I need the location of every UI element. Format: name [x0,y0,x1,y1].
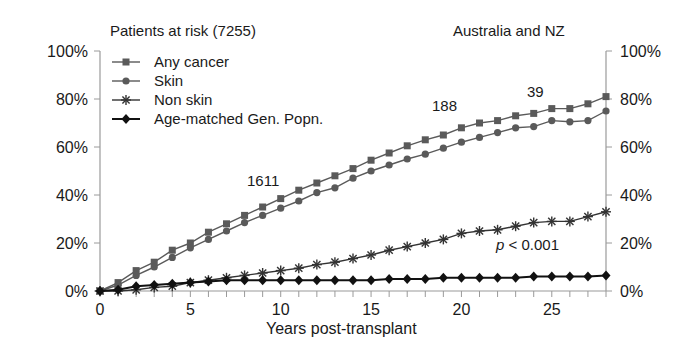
y-tick-label-right: 100% [620,43,661,60]
square-marker [494,117,501,124]
square-marker [205,229,212,236]
square-marker [422,136,429,143]
diamond-marker [168,279,177,289]
diamond-marker [367,275,376,285]
circle-marker [512,124,519,131]
y-tick-label-left: 100% [47,43,88,60]
square-marker [259,204,266,211]
asterisk-marker [583,212,593,222]
legend-label: Age-matched Gen. Popn. [154,110,323,127]
diamond-marker [403,274,412,284]
asterisk-marker [294,263,304,273]
circle-marker [205,236,212,243]
diamond-marker [240,275,249,285]
square-marker [386,150,393,157]
asterisk-marker [366,250,376,260]
circle-marker [494,129,501,136]
y-tick-label-right: 40% [620,187,652,204]
square-marker [404,142,411,149]
square-marker [277,195,284,202]
annotation-39: 39 [527,83,544,100]
x-tick-label: 20 [453,301,471,318]
asterisk-marker [475,226,485,236]
asterisk-marker [601,207,611,217]
legend-asterisk-icon [121,95,131,105]
square-marker [512,112,519,119]
asterisk-marker [456,228,466,238]
circle-marker [602,107,609,114]
circle-marker [349,175,356,182]
legend-label: Any cancer [154,53,229,70]
circle-marker [223,227,230,234]
y-tick-label-left: 60% [56,139,88,156]
square-marker [584,100,591,107]
diamond-marker [330,275,339,285]
diamond-marker [583,272,592,282]
diamond-marker [565,272,574,282]
legend-label: Skin [154,72,183,89]
chart-title-left: Patients at risk (7255) [110,22,256,39]
square-marker [440,132,447,139]
circle-marker [169,254,176,261]
square-marker [223,220,230,227]
chart-title-right: Australia and NZ [453,22,565,39]
circle-marker [133,272,140,279]
asterisk-marker [438,234,448,244]
diamond-marker [475,273,484,283]
asterisk-marker [511,221,521,231]
legend-label: Non skin [154,91,212,108]
diamond-marker [276,275,285,285]
legend-circle-icon [122,77,129,84]
x-axis-label: Years post-transplant [266,320,417,338]
cumulative-incidence-chart: 0%0%20%20%40%40%60%60%80%80%100%100%0510… [0,0,695,364]
circle-marker [151,263,158,270]
square-marker [566,105,573,112]
square-marker [476,120,483,127]
annotation-1611: 1611 [247,172,279,189]
asterisk-marker [312,260,322,270]
diamond-marker [511,273,520,283]
circle-marker [367,167,374,174]
x-tick-label: 25 [543,301,561,318]
y-tick-label-right: 0% [620,283,643,300]
circle-marker [440,145,447,152]
asterisk-marker [493,225,503,235]
circle-marker [295,197,302,204]
circle-marker [584,117,591,124]
asterisk-marker [384,245,394,255]
circle-marker [259,212,266,219]
circle-marker [458,139,465,146]
series-line-skin [100,111,606,291]
square-marker [548,105,555,112]
square-marker [295,187,302,194]
diamond-marker [312,275,321,285]
circle-marker [476,134,483,141]
diamond-marker [547,272,556,282]
circle-marker [277,205,284,212]
circle-marker [566,118,573,125]
asterisk-marker [330,257,340,267]
square-marker [530,110,537,117]
circle-marker [404,155,411,162]
diamond-marker [529,272,538,282]
y-tick-label-left: 80% [56,91,88,108]
legend-diamond-icon [122,114,131,124]
diamond-marker [493,273,502,283]
asterisk-marker [529,218,539,228]
circle-marker [530,123,537,130]
circle-marker [386,161,393,168]
p-value-annotation: p < 0.001 [496,236,559,253]
y-tick-label-right: 60% [620,139,652,156]
diamond-marker [439,273,448,283]
p-value: < 0.001 [504,236,559,253]
circle-marker [313,189,320,196]
y-tick-label-left: 20% [56,235,88,252]
annotation-188: 188 [432,97,457,114]
asterisk-marker [402,242,412,252]
circle-marker [422,151,429,158]
square-marker [313,180,320,187]
y-tick-label-left: 40% [56,187,88,204]
square-marker [368,157,375,164]
diamond-marker [602,270,611,280]
diamond-marker [294,275,303,285]
